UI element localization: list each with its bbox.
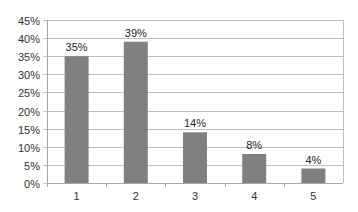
- bar-1: [65, 56, 89, 183]
- y-tick-label: 5%: [24, 160, 40, 172]
- bar-5: [301, 169, 325, 183]
- y-tick-label: 35%: [18, 51, 40, 63]
- x-tick-label: 5: [310, 190, 316, 202]
- y-tick-label: 40%: [18, 33, 40, 45]
- y-tick-label: 45%: [18, 15, 40, 27]
- y-axis: 0%5%10%15%20%25%30%35%40%45%: [18, 15, 48, 190]
- x-tick-label: 4: [251, 190, 257, 202]
- y-tick-label: 10%: [18, 142, 40, 154]
- x-tick-label: 2: [133, 190, 139, 202]
- data-label: 4%: [305, 154, 321, 166]
- x-axis: 12345: [47, 183, 343, 202]
- y-tick-label: 15%: [18, 124, 40, 136]
- y-tick-label: 0%: [24, 178, 40, 190]
- bar-4: [242, 154, 266, 183]
- y-tick-label: 25%: [18, 87, 40, 99]
- data-label: 39%: [125, 27, 147, 39]
- x-tick-label: 1: [74, 190, 80, 202]
- bar-2: [124, 42, 148, 183]
- data-label: 8%: [246, 139, 262, 151]
- bars: [65, 42, 326, 183]
- y-tick-label: 20%: [18, 106, 40, 118]
- bar-3: [183, 132, 207, 183]
- x-tick-label: 3: [192, 190, 198, 202]
- bar-chart: 0%5%10%15%20%25%30%35%40%45% 35%39%14%8%…: [0, 0, 358, 212]
- y-tick-label: 30%: [18, 69, 40, 81]
- data-label: 35%: [66, 41, 88, 53]
- data-label: 14%: [184, 117, 206, 129]
